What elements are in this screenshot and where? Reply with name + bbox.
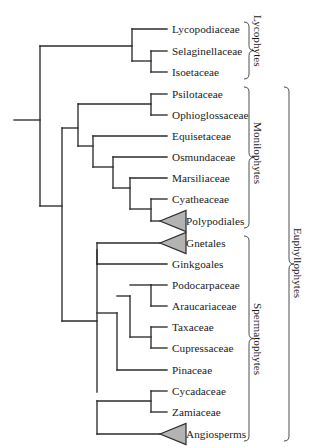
tip-label: Araucariaceae (172, 301, 237, 312)
tip-label: Cyatheaceae (172, 194, 229, 205)
tip-label: Polypodiales (186, 216, 244, 227)
tip-label: Marsiliaceae (172, 173, 230, 184)
tip-label: Cycadaceae (172, 386, 226, 397)
tip-label: Ophioglossaceae (172, 110, 249, 121)
tip-label: Taxaceae (172, 322, 214, 333)
clade-label-monilophytes: Monilophytes (252, 122, 263, 184)
clade-bracket-layer (244, 22, 294, 441)
branch-layer (14, 29, 167, 434)
collapsed-clade-triangle (160, 233, 186, 254)
tip-label: Gnetales (186, 238, 226, 249)
clade-label-euphyllophytes: Euphyllophytes (292, 228, 303, 298)
clade-label-spermatophytes: Spermatophytes (252, 303, 263, 375)
tip-label: Osmundaceae (172, 152, 235, 163)
tip-label: Zamiaceae (172, 407, 221, 418)
tip-label: Equisetaceae (172, 131, 231, 142)
tip-label: Podocarpaceae (172, 280, 240, 291)
tip-label: Angiosperms (186, 429, 246, 440)
tree-branch-diagram (0, 0, 325, 448)
tip-label: Psilotaceae (172, 89, 223, 100)
collapsed-clade-triangle (160, 211, 186, 232)
tip-label: Cupressaceae (172, 343, 233, 354)
phylogenetic-tree-figure: LycopodiaceaeSelaginellaceaeIsoetaceaePs… (0, 0, 325, 448)
tip-label: Selaginellaceae (172, 46, 242, 57)
tip-label: Lycopodiaceae (172, 24, 240, 35)
tip-label: Ginkgoales (172, 259, 223, 270)
clade-label-lycophytes: Lycophytes (252, 15, 263, 67)
tip-label: Pinaceae (172, 365, 212, 376)
collapsed-clade-triangle (160, 424, 186, 445)
tip-label: Isoetaceae (172, 67, 219, 78)
